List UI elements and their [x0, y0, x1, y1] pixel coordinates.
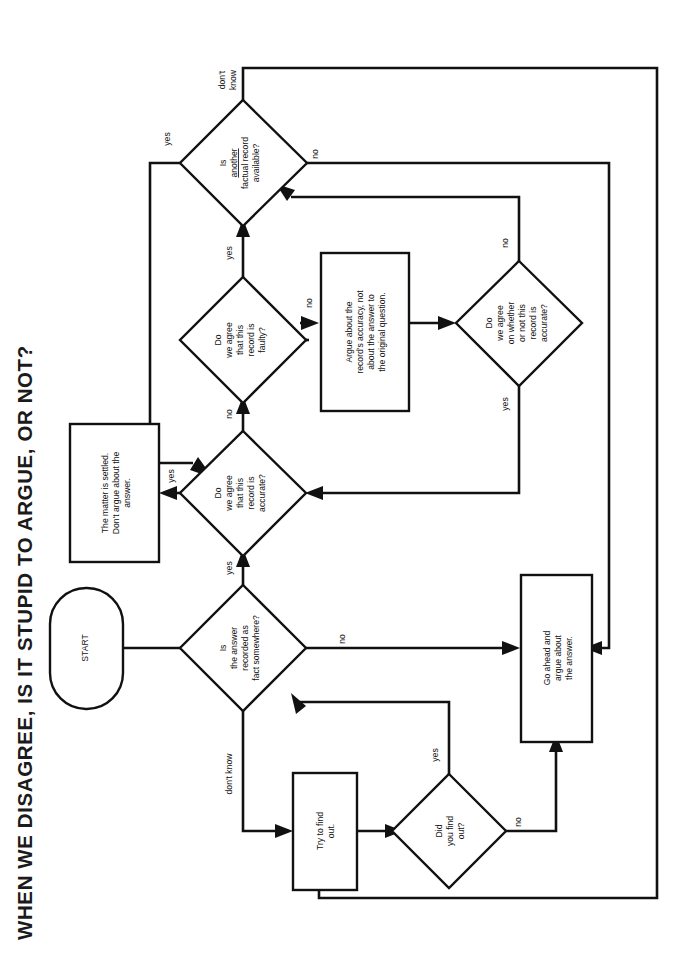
edge-didfind-yes	[299, 702, 449, 774]
arrow-faulty-to-argueacc	[301, 316, 319, 330]
accurate-line-5: accurate?	[257, 474, 267, 512]
start-label: START	[80, 634, 90, 662]
edge-label-accurate-yes: yes	[166, 469, 176, 482]
argueacc-line-1: Argue about the	[344, 301, 354, 362]
goahead-line-3: the answer.	[564, 636, 574, 680]
edge-another-yes-path	[150, 163, 193, 463]
another-line-4: available?	[251, 143, 261, 182]
node-start[interactable]: START	[50, 588, 123, 709]
argueacc-line-3: about the answer to	[366, 294, 376, 370]
settled-line-3: answer.	[122, 478, 132, 508]
edge-label-another-no: no	[310, 149, 320, 159]
faulty-line-1: Do	[213, 334, 223, 345]
node-tryfind-process[interactable]: Try to find out.	[293, 773, 357, 890]
edge-label-recorded-no: no	[337, 634, 347, 644]
edge-agreewhether-no-h	[291, 197, 519, 261]
arrow-recorded-dontknow	[275, 824, 293, 838]
tryfind-process-shape	[293, 773, 357, 890]
goahead-line-2: argue about	[553, 634, 563, 680]
edge-label-accurate-no: no	[224, 409, 234, 419]
agreewhether-line-4: or not this	[517, 304, 527, 342]
recorded-line-2: the answer	[229, 627, 239, 669]
node-didfind-decision[interactable]: Did you find out?	[392, 774, 506, 888]
didfind-line-2: you find	[445, 816, 455, 846]
arrow-agreewhether-yes	[305, 486, 323, 500]
recorded-line-1: Is	[218, 645, 228, 652]
accurate-line-3: that this	[235, 478, 245, 508]
edge-label-faulty-yes: yes	[224, 246, 234, 259]
arrow-recorded-no	[502, 641, 520, 655]
edge-label-didfind-no: no	[513, 817, 523, 827]
accurate-line-1: Do	[213, 487, 223, 498]
recorded-line-3: recorded as	[240, 625, 250, 670]
agreewhether-line-1: Do	[484, 317, 494, 328]
edge-label-recorded-dontknow: don't know	[224, 753, 234, 795]
argueacc-line-2: record's accuracy, not	[355, 290, 365, 374]
arrow-argueacc-to-agreewhether	[438, 316, 456, 330]
node-accurate-decision[interactable]: Do we agree that this record is accurate…	[180, 431, 306, 556]
edge-label-another-dontknow-1: don't	[217, 70, 227, 89]
page-title-text: WHEN WE DISAGREE, IS IT STUPID TO ARGUE,…	[13, 345, 36, 940]
agreewhether-line-5: record is	[528, 307, 538, 340]
node-argueacc-process[interactable]: Argue about the record's accuracy, not a…	[321, 253, 409, 411]
arrow-accurate-yes	[159, 486, 177, 500]
agreewhether-line-2: we agree	[495, 305, 505, 342]
edge-label-agreewhether-yes: yes	[500, 397, 510, 410]
faulty-line-2: we agree	[224, 322, 234, 359]
node-agreewhether-decision[interactable]: Do we agree on whether or not this recor…	[456, 261, 582, 386]
goahead-line-1: Go ahead and	[542, 631, 552, 686]
edge-label-didfind-yes: yes	[430, 748, 440, 761]
another-line-3: factual record	[240, 137, 250, 189]
recorded-line-4: fact somewhere?	[251, 615, 261, 681]
another-line-1: Is	[218, 160, 228, 167]
edge-label-another-dontknow-2: know	[228, 69, 238, 90]
edge-label-agreewhether-no: no	[500, 238, 510, 248]
edge-label-recorded-yes: yes	[224, 561, 234, 574]
edge-label-faulty-no: no	[304, 298, 314, 308]
node-faulty-decision[interactable]: Do we agree that this record is faulty?	[180, 277, 306, 403]
edge-recorded-dontknow	[243, 711, 285, 831]
flowchart-page: WHEN WE DISAGREE, IS IT STUPID TO ARGUE,…	[0, 0, 699, 961]
settled-line-1: The matter is settled.	[100, 453, 110, 533]
accurate-line-4: record is	[246, 477, 256, 510]
another-line-2-emphasis: another	[229, 148, 239, 177]
node-recorded-decision[interactable]: Is the answer recorded as fact somewhere…	[180, 585, 306, 711]
page-title: WHEN WE DISAGREE, IS IT STUPID TO ARGUE,…	[13, 345, 36, 940]
faulty-line-3: that this	[235, 325, 245, 355]
accurate-line-2: we agree	[224, 475, 234, 512]
node-another-decision[interactable]: Is another factual record available?	[180, 100, 307, 226]
faulty-line-5: faulty?	[257, 327, 267, 353]
node-goahead-process[interactable]: Go ahead and argue about the answer.	[521, 575, 592, 742]
tryfind-line-1: Try to find	[315, 812, 325, 850]
agreewhether-line-6: accurate?	[539, 304, 549, 342]
settled-line-2: Don't argue about the	[111, 452, 121, 535]
didfind-line-3: out?	[456, 822, 466, 839]
argueacc-line-4: the original question.	[377, 292, 387, 371]
node-settled-process[interactable]: The matter is settled. Don't argue about…	[70, 424, 159, 562]
faulty-line-4: record is	[246, 324, 256, 357]
argueacc-process-shape	[321, 253, 409, 411]
agreewhether-line-3: on whether	[506, 302, 516, 345]
tryfind-line-2: out.	[326, 824, 336, 838]
didfind-line-1: Did	[434, 824, 444, 837]
arrow-didfind-yes	[291, 693, 306, 714]
edge-label-another-yes: yes	[162, 132, 172, 145]
flowchart-canvas: WHEN WE DISAGREE, IS IT STUPID TO ARGUE,…	[0, 0, 699, 961]
